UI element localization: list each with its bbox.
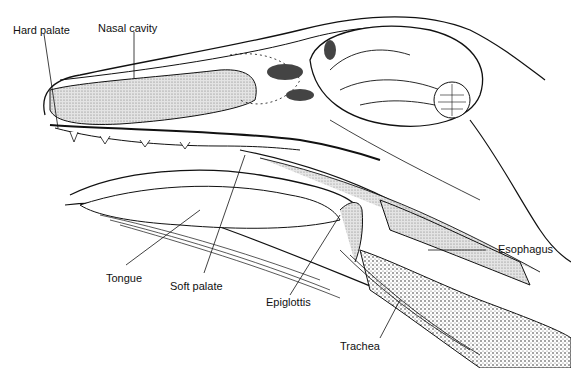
- trachea-region: [360, 250, 571, 368]
- label-trachea: Trachea: [340, 340, 380, 352]
- label-soft-palate: Soft palate: [170, 280, 223, 292]
- dog-head-diagram: [0, 0, 571, 368]
- label-nasal-cavity: Nasal cavity: [98, 22, 157, 34]
- hard-palate: [50, 125, 380, 160]
- label-epiglottis: Epiglottis: [266, 296, 311, 308]
- label-esophagus: Esophagus: [498, 243, 553, 255]
- label-hard-palate: Hard palate: [13, 24, 70, 36]
- label-tongue: Tongue: [106, 272, 142, 284]
